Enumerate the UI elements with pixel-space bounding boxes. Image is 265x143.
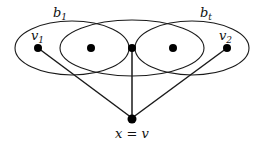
label-b1: b1 bbox=[53, 5, 67, 22]
node-overlap-right bbox=[169, 44, 177, 52]
label-bt: bt bbox=[200, 5, 212, 22]
node-x bbox=[128, 115, 137, 124]
block-bt-ellipse bbox=[135, 21, 249, 75]
node-overlap-left bbox=[87, 44, 95, 52]
edge-x-v2 bbox=[132, 48, 227, 118]
edge-x-v1 bbox=[38, 48, 132, 118]
label-x-equals-v: x = v bbox=[115, 126, 149, 141]
hypergraph-diagram: b1 bt v1 v2 x = v bbox=[0, 0, 265, 143]
label-v2: v2 bbox=[219, 28, 232, 45]
label-v1: v1 bbox=[31, 28, 44, 45]
node-v1 bbox=[34, 44, 42, 52]
node-center bbox=[128, 44, 136, 52]
node-v2 bbox=[223, 44, 231, 52]
